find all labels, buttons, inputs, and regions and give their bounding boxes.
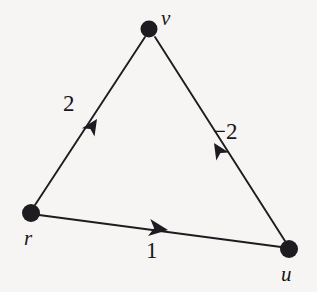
graph-canvas xyxy=(0,0,317,292)
edge-weight-r-to-u: 1 xyxy=(146,239,158,262)
graph-edges xyxy=(35,37,285,247)
graph-figure: v r u 2 −2 1 xyxy=(0,0,317,292)
node-r[interactable] xyxy=(22,204,40,222)
edge-weight-u-to-v: −2 xyxy=(213,120,237,143)
node-label-r: r xyxy=(24,228,32,249)
edge-r-to-v xyxy=(35,37,145,205)
edge-weight-r-to-v: 2 xyxy=(63,92,75,115)
graph-arrowheads xyxy=(82,115,229,239)
arrowhead-r-to-u xyxy=(148,219,169,238)
node-label-v: v xyxy=(161,8,170,29)
graph-nodes xyxy=(22,21,298,259)
node-label-u: u xyxy=(281,264,292,285)
node-u[interactable] xyxy=(280,240,298,258)
node-v[interactable] xyxy=(141,21,158,38)
